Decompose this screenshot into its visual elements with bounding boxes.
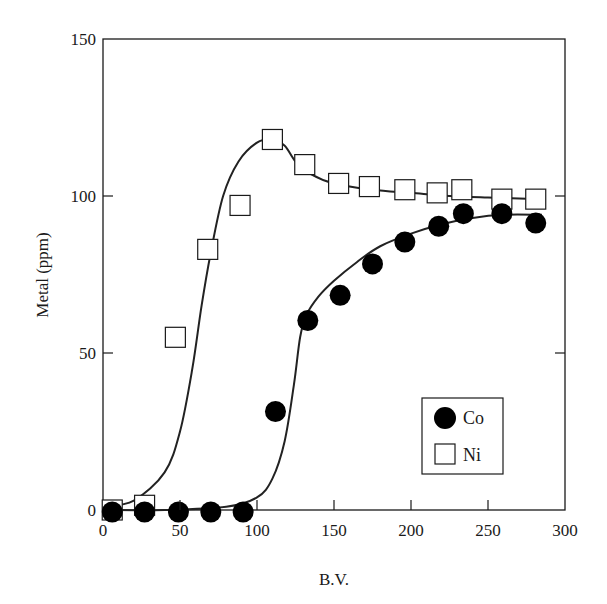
ni-data-point [359,177,379,197]
x-tick-label: 0 [99,521,108,540]
ni-data-point [198,239,218,259]
y-tick-label: 50 [79,344,96,363]
x-tick-label: 150 [321,521,347,540]
ni-data-point [526,189,546,209]
co-data-point [453,203,474,224]
legend-ni-label: Ni [463,445,481,465]
co-data-point [428,216,449,237]
co-data-point [102,502,123,523]
legend-co-label: Co [463,408,484,428]
legend: Co Ni [422,398,503,474]
co-data-point [265,401,286,422]
co-data-point [297,310,318,331]
legend-ni-marker-icon [435,444,455,464]
co-data-point [330,285,351,306]
co-data-point [362,253,383,274]
ni-data-point [295,155,315,175]
x-tick-label: 300 [552,521,578,540]
ni-data-point [452,180,472,200]
legend-co-marker-icon [434,407,456,429]
co-data-point [168,502,189,523]
y-tick-label: 150 [71,30,97,49]
co-data-point [394,231,415,252]
ni-data-point [262,129,282,149]
co-data-point [200,502,221,523]
x-axis-title: B.V. [319,570,349,589]
ni-data-point [427,183,447,203]
x-tick-label: 250 [475,521,501,540]
ni-data-point [395,180,415,200]
y-tick-label: 0 [88,501,97,520]
ni-data-point [230,195,250,215]
x-tick-label: 100 [244,521,270,540]
co-data-point [233,502,254,523]
y-tick-label: 100 [71,187,97,206]
co-data-point [134,502,155,523]
y-axis-title: Metal (ppm) [33,232,52,317]
ni-data-point [165,327,185,347]
co-data-point [525,213,546,234]
x-tick-label: 200 [398,521,424,540]
x-tick-label: 50 [172,521,189,540]
chart-canvas: 050100150200250300 050100150 B.V. Metal … [0,0,607,604]
co-data-point [491,203,512,224]
ni-data-point [329,173,349,193]
